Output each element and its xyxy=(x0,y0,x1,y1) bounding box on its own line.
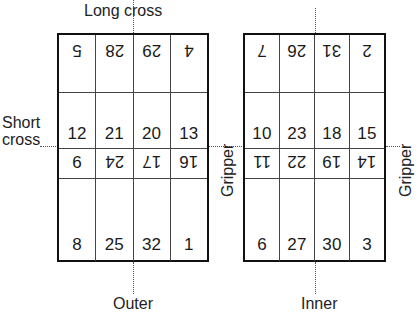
table-row: 11 22 19 14 xyxy=(245,148,384,178)
cell-value: 8 xyxy=(72,236,82,253)
table-cell: 7 xyxy=(245,35,279,92)
cell-value: 16 xyxy=(179,153,198,170)
cell-value: 20 xyxy=(142,125,161,142)
cell-value: 14 xyxy=(357,153,376,170)
table-row: 10 23 18 15 xyxy=(245,92,384,148)
cell-value: 12 xyxy=(67,125,86,142)
inner-label: Inner xyxy=(301,296,337,313)
table-cell: 22 xyxy=(279,149,314,178)
cell-value: 11 xyxy=(253,153,271,170)
table-cell: 5 xyxy=(59,35,95,92)
cell-value: 18 xyxy=(322,125,341,142)
table-cell: 16 xyxy=(170,149,207,178)
cell-value: 31 xyxy=(322,42,341,59)
long-cross-label: Long cross xyxy=(84,3,162,20)
cell-value: 23 xyxy=(287,125,306,142)
cell-value: 21 xyxy=(105,125,124,142)
cell-value: 2 xyxy=(362,42,372,59)
table-cell: 26 xyxy=(279,35,314,92)
cell-value: 5 xyxy=(72,42,82,59)
table-cell: 10 xyxy=(245,93,279,148)
table-cell: 18 xyxy=(314,93,349,148)
cell-value: 29 xyxy=(142,42,161,59)
short-cross-label-line2: cross xyxy=(2,131,40,148)
table-cell: 23 xyxy=(279,93,314,148)
cell-value: 7 xyxy=(257,42,267,59)
inner-center-guide-top xyxy=(315,8,316,33)
table-cell: 30 xyxy=(314,179,349,261)
cell-value: 26 xyxy=(287,42,306,59)
table-cell: 1 xyxy=(170,179,207,261)
cell-value: 10 xyxy=(252,125,271,142)
cell-value: 1 xyxy=(184,236,194,253)
cell-value: 4 xyxy=(184,42,194,59)
cell-value: 6 xyxy=(257,236,267,253)
table-row: 5 28 29 4 xyxy=(59,35,207,92)
table-cell: 6 xyxy=(245,179,279,261)
table-cell: 20 xyxy=(133,93,170,148)
inner-table: 7 26 31 2 10 23 18 15 11 22 19 14 6 27 3… xyxy=(243,33,386,262)
table-row: 7 26 31 2 xyxy=(245,35,384,92)
table-cell: 12 xyxy=(59,93,95,148)
cell-value: 19 xyxy=(322,153,341,170)
table-cell: 19 xyxy=(314,149,349,178)
cell-value: 25 xyxy=(105,236,124,253)
cell-value: 22 xyxy=(287,153,306,170)
table-cell: 9 xyxy=(59,149,95,178)
outer-table: 5 28 29 4 12 21 20 13 9 24 17 16 8 25 32… xyxy=(57,33,209,262)
table-cell: 29 xyxy=(133,35,170,92)
table-row: 6 27 30 3 xyxy=(245,178,384,261)
cell-value: 9 xyxy=(72,153,82,170)
cell-value: 27 xyxy=(287,236,306,253)
inner-center-guide-bottom xyxy=(315,262,316,294)
cell-value: 3 xyxy=(362,236,372,253)
table-cell: 32 xyxy=(133,179,170,261)
short-cross-label-line1: Short xyxy=(2,114,40,131)
outer-center-guide-bottom xyxy=(133,262,134,294)
cell-value: 32 xyxy=(142,236,161,253)
table-cell: 11 xyxy=(245,149,279,178)
table-cell: 28 xyxy=(95,35,132,92)
table-cell: 8 xyxy=(59,179,95,261)
table-cell: 24 xyxy=(95,149,132,178)
table-cell: 21 xyxy=(95,93,132,148)
short-cross-label: Shortcross xyxy=(2,115,40,149)
gripper-label-middle: Gripper xyxy=(219,144,237,197)
figure-canvas: 5 28 29 4 12 21 20 13 9 24 17 16 8 25 32… xyxy=(0,0,419,322)
table-cell: 15 xyxy=(349,93,384,148)
cell-value: 24 xyxy=(105,153,124,170)
cell-value: 28 xyxy=(105,42,124,59)
table-cell: 3 xyxy=(349,179,384,261)
table-cell: 2 xyxy=(349,35,384,92)
table-row: 12 21 20 13 xyxy=(59,92,207,148)
outer-label: Outer xyxy=(113,296,153,313)
table-cell: 4 xyxy=(170,35,207,92)
table-cell: 31 xyxy=(314,35,349,92)
table-cell: 13 xyxy=(170,93,207,148)
cell-value: 15 xyxy=(357,125,376,142)
short-cross-guide-left xyxy=(40,146,58,147)
gripper-label-right: Gripper xyxy=(397,144,415,197)
table-cell: 17 xyxy=(133,149,170,178)
table-cell: 14 xyxy=(349,149,384,178)
table-cell: 25 xyxy=(95,179,132,261)
table-cell: 27 xyxy=(279,179,314,261)
cell-value: 30 xyxy=(322,236,341,253)
cell-value: 13 xyxy=(179,125,198,142)
table-row: 9 24 17 16 xyxy=(59,148,207,178)
cell-value: 17 xyxy=(142,153,161,170)
table-row: 8 25 32 1 xyxy=(59,178,207,261)
